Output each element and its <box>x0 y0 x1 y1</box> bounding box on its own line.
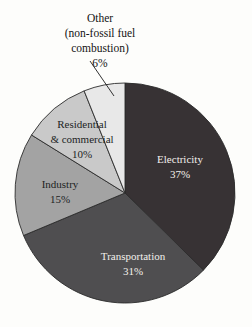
transportation-label-name: Transportation <box>101 250 166 262</box>
transportation-label-value: 31% <box>123 265 143 277</box>
residential-label-name: Residential <box>57 118 107 130</box>
residential-label-name-line2: & commercial <box>50 133 113 145</box>
slice-label-other: Other (non-fossil fuel combustion) 6% <box>65 12 136 69</box>
pie-chart-svg: Electricity 37% Transportation 31% Indus… <box>0 0 252 327</box>
electricity-label-value: 37% <box>170 168 190 180</box>
industry-label-name: Industry <box>42 178 79 190</box>
other-label-name-line2: (non-fossil fuel <box>65 27 136 40</box>
pie-chart: Electricity 37% Transportation 31% Indus… <box>0 0 252 327</box>
residential-label-value: 10% <box>72 148 92 160</box>
other-label-name: Other <box>87 12 113 24</box>
other-label-value: 6% <box>92 57 108 69</box>
electricity-label-name: Electricity <box>157 153 203 165</box>
industry-label-value: 15% <box>50 193 70 205</box>
other-label-name-line3: combustion) <box>71 42 129 55</box>
